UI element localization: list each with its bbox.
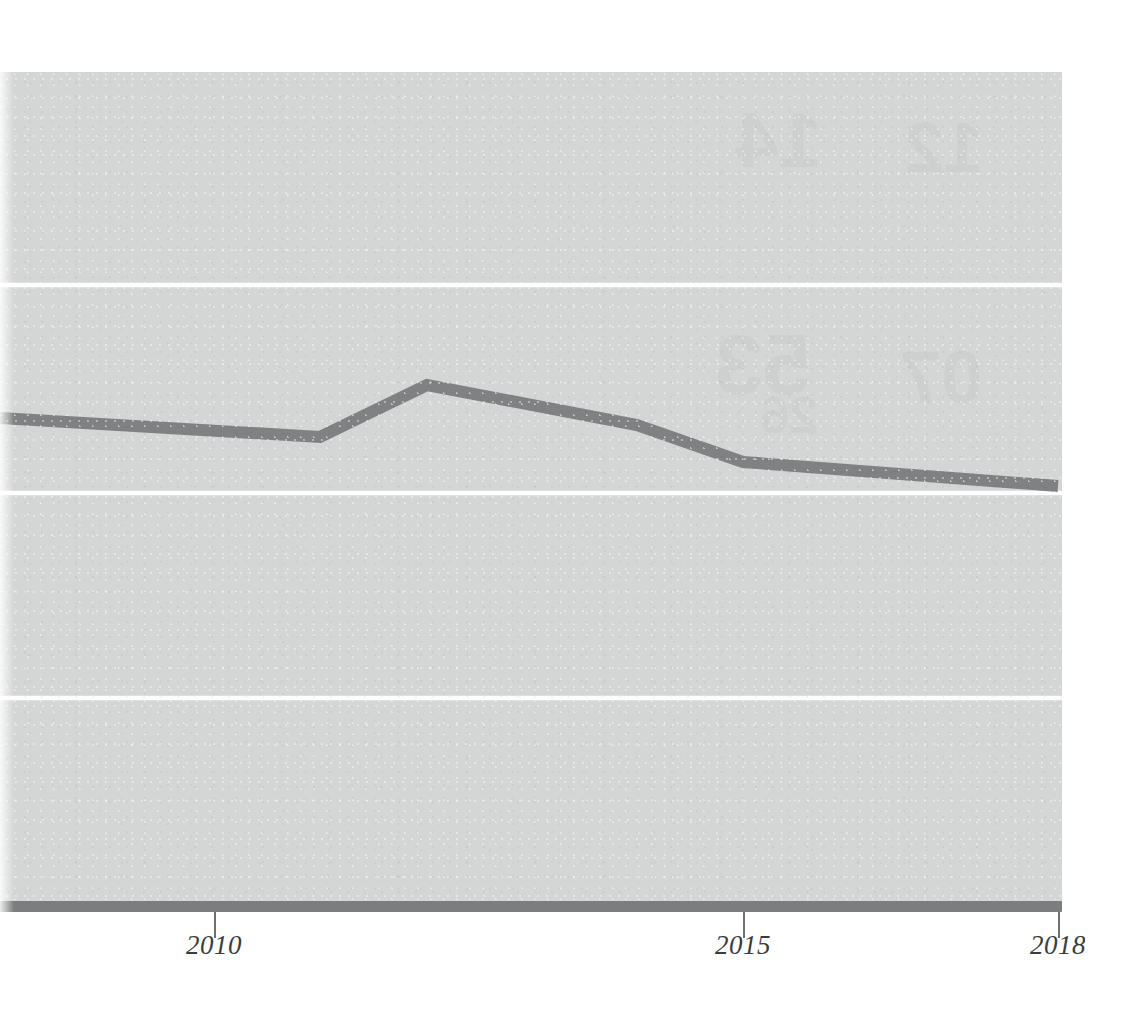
series-layer bbox=[0, 72, 1062, 903]
plot-area: 1412530726 bbox=[0, 72, 1062, 903]
x-tick-label-2015: 2015 bbox=[715, 930, 771, 961]
chart-figure: 1412530726 201020152018 bbox=[0, 0, 1145, 1024]
page-edge-top bbox=[0, 0, 1145, 40]
page-edge-bottom bbox=[0, 969, 1145, 1024]
x-tick-label-2018: 2018 bbox=[1030, 930, 1086, 961]
page-edge-right bbox=[1085, 0, 1145, 1024]
series-line-1 bbox=[0, 385, 1058, 486]
x-axis-line bbox=[0, 901, 1062, 912]
x-tick-label-2010: 2010 bbox=[186, 930, 242, 961]
